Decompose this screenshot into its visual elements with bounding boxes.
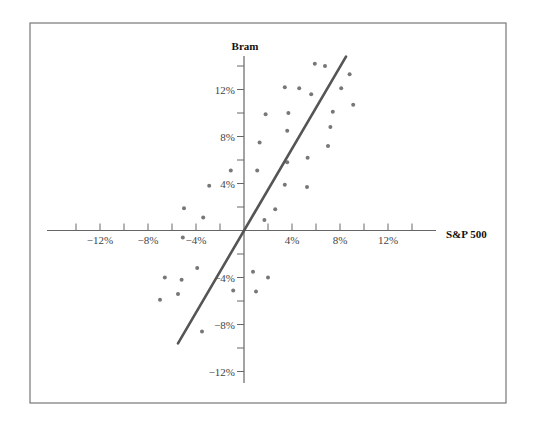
data-point	[313, 62, 317, 66]
data-point	[264, 112, 268, 116]
data-point	[180, 278, 184, 282]
x-tick-label: 8%	[333, 234, 348, 246]
data-point	[326, 144, 330, 148]
x-tick-label: 12%	[378, 234, 398, 246]
data-point	[158, 298, 162, 302]
data-point	[182, 206, 186, 210]
data-point	[251, 270, 255, 274]
data-point	[207, 184, 211, 188]
data-point	[195, 266, 199, 270]
data-point	[255, 169, 259, 173]
data-point	[231, 288, 235, 292]
y-axis-title: Bram	[232, 40, 259, 52]
data-point	[286, 111, 290, 115]
data-point	[163, 276, 167, 280]
scatter-chart: −12%−8%−4%4%8%12% 12%8%4%−4%−8%−12% Bram…	[0, 0, 533, 423]
data-point	[181, 236, 185, 240]
data-point	[254, 290, 258, 294]
y-tick-label: −8%	[214, 319, 235, 331]
y-tick-label: 12%	[215, 84, 235, 96]
data-point	[273, 207, 277, 211]
data-point	[309, 92, 313, 96]
data-point	[305, 185, 309, 189]
data-point	[331, 110, 335, 114]
y-tick-label: 4%	[220, 178, 235, 190]
data-point	[201, 216, 205, 220]
chart-frame	[30, 23, 506, 403]
x-tick-label: −12%	[87, 234, 113, 246]
data-point	[283, 85, 287, 89]
y-tick-label: 8%	[220, 131, 235, 143]
data-point	[285, 129, 289, 133]
x-tick-label: −4%	[186, 234, 207, 246]
data-point	[262, 218, 266, 222]
x-tick-label: −8%	[138, 234, 159, 246]
data-point	[258, 140, 262, 144]
data-point	[297, 86, 301, 90]
data-point	[229, 169, 233, 173]
data-point	[339, 86, 343, 90]
data-point	[266, 276, 270, 280]
data-point	[176, 292, 180, 296]
x-tick-label: 4%	[285, 234, 300, 246]
data-point	[306, 156, 310, 160]
data-point	[200, 330, 204, 334]
data-point	[283, 183, 287, 187]
data-point	[351, 103, 355, 107]
data-point	[348, 72, 352, 76]
data-point	[328, 125, 332, 129]
x-axis-title: S&P 500	[446, 228, 487, 240]
y-tick-label: −12%	[209, 366, 235, 378]
data-point	[323, 64, 327, 68]
